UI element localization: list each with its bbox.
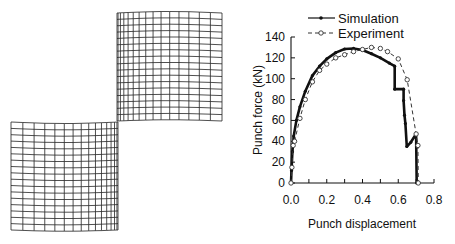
simulation-marker <box>304 90 307 93</box>
y-tick-label: 40 <box>272 134 286 148</box>
legend-simulation-marker-icon <box>319 16 323 20</box>
simulation-marker <box>404 122 407 125</box>
legend-simulation-label: Simulation <box>338 11 399 26</box>
x-tick-label: 0.4 <box>354 193 371 207</box>
y-axis-title: Punch force (kN) <box>251 65 265 155</box>
experiment-marker <box>292 139 296 143</box>
experiment-marker <box>360 47 364 51</box>
simulation-marker <box>402 99 405 102</box>
series-layer <box>289 45 421 185</box>
series-simulation-line <box>291 49 417 184</box>
force-displacement-chart: Simulation Experiment 020406080100120140… <box>0 0 455 244</box>
simulation-marker <box>370 52 373 55</box>
simulation-marker <box>405 145 408 148</box>
simulation-marker <box>379 56 382 59</box>
simulation-marker <box>393 88 396 91</box>
legend-experiment-label: Experiment <box>338 26 404 41</box>
experiment-marker <box>303 97 307 101</box>
experiment-marker <box>405 78 409 82</box>
experiment-marker <box>310 80 314 84</box>
experiment-marker <box>416 143 420 147</box>
series-experiment-line <box>291 47 418 183</box>
simulation-marker <box>403 114 406 117</box>
simulation-marker <box>388 61 391 64</box>
y-tick-label: 0 <box>278 176 285 190</box>
experiment-marker <box>290 165 294 169</box>
experiment-marker <box>325 62 329 66</box>
y-tick-label: 80 <box>272 93 286 107</box>
y-tick-label: 140 <box>265 30 285 44</box>
x-tick-label: 0.6 <box>390 193 407 207</box>
simulation-marker <box>325 57 328 60</box>
simulation-marker <box>298 105 301 108</box>
experiment-marker <box>369 45 373 49</box>
simulation-marker <box>311 74 314 77</box>
experiment-marker <box>351 49 355 53</box>
experiment-marker <box>317 68 321 72</box>
x-axis-title: Punch displacement <box>308 217 417 231</box>
x-tick-label: 0.0 <box>283 193 300 207</box>
experiment-marker <box>298 116 302 120</box>
experiment-marker <box>385 49 389 53</box>
y-tick-label: 20 <box>272 155 286 169</box>
simulation-marker <box>402 88 405 91</box>
experiment-marker <box>416 181 420 185</box>
simulation-marker <box>334 51 337 54</box>
legend: Simulation Experiment <box>308 11 404 41</box>
experiment-marker <box>333 56 337 60</box>
simulation-marker <box>292 134 295 137</box>
legend-experiment-marker-icon <box>319 31 323 35</box>
x-tick-label: 0.2 <box>318 193 335 207</box>
experiment-marker <box>414 132 418 136</box>
simulation-marker <box>318 65 321 68</box>
experiment-marker <box>342 53 346 57</box>
simulation-marker <box>343 47 346 50</box>
simulation-marker <box>393 65 396 68</box>
simulation-marker <box>409 141 412 144</box>
experiment-marker <box>396 57 400 61</box>
x-tick-label: 0.8 <box>426 193 443 207</box>
y-tick-label: 60 <box>272 113 286 127</box>
y-tick-label: 120 <box>265 51 285 65</box>
experiment-marker <box>289 181 293 185</box>
experiment-marker <box>378 46 382 50</box>
y-tick-label: 100 <box>265 72 285 86</box>
